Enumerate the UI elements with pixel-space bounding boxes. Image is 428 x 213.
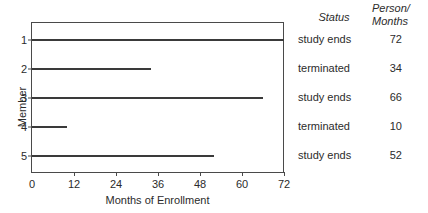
x-tick-label: 60 <box>236 178 248 190</box>
person-months-cell: 66 <box>372 92 402 103</box>
x-tick-label: 36 <box>152 178 164 190</box>
status-cell: terminated <box>298 120 376 131</box>
x-tick-label: 12 <box>68 178 80 190</box>
x-tick-mark <box>158 172 159 176</box>
y-tick-label: 4 <box>21 121 32 132</box>
x-tick-mark <box>242 172 243 176</box>
member-enrollment-line <box>32 97 263 99</box>
y-tick-label: 5 <box>21 150 32 161</box>
member-enrollment-line <box>32 126 67 128</box>
x-axis-label: Months of Enrollment <box>31 194 284 206</box>
person-months-cell: 10 <box>372 120 402 131</box>
x-tick-mark <box>74 172 75 176</box>
member-enrollment-line <box>32 68 151 70</box>
plot-area: 123450122436486072 <box>31 22 284 173</box>
person-months-column-header: Person/ Months <box>372 2 426 28</box>
person-months-cell: 52 <box>372 149 402 160</box>
y-tick-label: 1 <box>21 35 32 46</box>
y-tick-label: 3 <box>21 93 32 104</box>
x-tick-label: 24 <box>110 178 122 190</box>
member-enrollment-line <box>32 39 284 41</box>
x-tick-mark <box>200 172 201 176</box>
status-cell: study ends <box>298 34 376 45</box>
x-tick-label: 0 <box>29 178 35 190</box>
survival-chart-figure: Member 123450122436486072 Months of Enro… <box>0 0 428 213</box>
x-tick-label: 48 <box>194 178 206 190</box>
person-months-header-line2: Months <box>372 15 426 28</box>
y-tick-label: 2 <box>21 64 32 75</box>
x-tick-mark <box>284 172 285 176</box>
status-cell: study ends <box>298 149 376 160</box>
status-cell: study ends <box>298 92 376 103</box>
person-months-cell: 72 <box>372 34 402 45</box>
person-months-cell: 34 <box>372 63 402 74</box>
x-tick-mark <box>116 172 117 176</box>
person-months-header-line1: Person/ <box>372 2 426 15</box>
status-cell: terminated <box>298 63 376 74</box>
status-column-header: Status <box>298 11 370 24</box>
x-tick-label: 72 <box>278 178 290 190</box>
member-enrollment-line <box>32 155 214 157</box>
